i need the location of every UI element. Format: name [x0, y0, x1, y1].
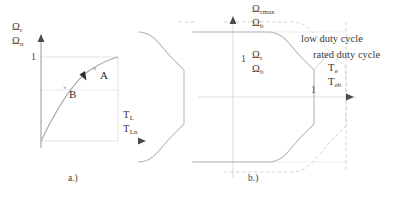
annotation-low-duty-cycle: low duty cycle [301, 34, 363, 45]
omega-glyph: Ω [252, 49, 260, 60]
figure-b-canvas [206, 0, 412, 202]
point-a-label: A [100, 70, 108, 81]
omega-glyph: Ω [12, 35, 20, 46]
point-a-marker-icon: × [93, 66, 96, 72]
figure-a-y-axis-symbol-bottom: Ωn [12, 36, 23, 47]
figure-b-caption: b.) [248, 174, 258, 184]
figure-a-y-tick-label: 1 [31, 52, 36, 62]
figure-b-y-axis-symbol-top: Ωrmax [252, 4, 274, 15]
figure-a: Ωr Ωn 1 TL TLn × A × B a.) [0, 0, 206, 202]
omega-glyph: Ω [12, 21, 20, 32]
omega-glyph: Ω [252, 3, 260, 14]
figure-b-inner-symbol-top: Ωr [252, 50, 262, 61]
figure-a-canvas [0, 0, 206, 202]
omega-subscript: rmax [260, 8, 274, 16]
figure-b-right-tick-label: 1 [311, 85, 316, 95]
torque-glyph: T [123, 123, 129, 134]
figure-b-x-axis-symbol-top: Te [328, 63, 338, 74]
torque-subscript: eb [335, 81, 342, 89]
figure-b-x-axis-symbol-bottom: Teb [328, 77, 341, 88]
omega-glyph: Ω [252, 17, 260, 28]
y-axis-arrowhead [38, 34, 45, 42]
annotation-rated-duty-cycle: rated duty cycle [313, 50, 380, 61]
figure-b: Ωrmax Ωb 1 Ωr Ωb 1 low duty cycle rated … [206, 0, 412, 202]
torque-glyph: T [123, 109, 129, 120]
torque-subscript: L [130, 114, 134, 122]
curve-direction-arrow [80, 71, 87, 81]
torque-glyph: T [328, 62, 334, 73]
point-b-marker-icon: × [63, 85, 66, 91]
omega-subscript: n [20, 40, 24, 48]
point-b-label: B [69, 89, 76, 100]
x-axis-arrowhead [138, 138, 146, 145]
torque-glyph: T [328, 76, 334, 87]
omega-glyph: Ω [252, 63, 260, 74]
figure-b-inner-tick-label: 1 [241, 54, 246, 64]
omega-subscript: b [260, 68, 264, 76]
figure-a-x-axis-symbol-top: TL [123, 110, 134, 121]
figure-b-inner-symbol-bottom: Ωb [252, 64, 263, 75]
figure-a-x-axis-symbol-bottom: TLn [123, 124, 137, 135]
torque-subscript: Ln [130, 128, 138, 136]
y-axis-arrowhead [230, 16, 237, 24]
figure-a-caption: a.) [68, 174, 78, 184]
figure-b-y-axis-symbol-bottom: Ωb [252, 18, 263, 29]
omega-subscript: b [260, 22, 264, 30]
figure-page: Ωr Ωn 1 TL TLn × A × B a.) [0, 0, 412, 202]
figure-a-y-axis-symbol-top: Ωr [12, 22, 22, 33]
torque-subscript: e [335, 67, 338, 75]
x-axis-arrowhead [346, 94, 354, 101]
